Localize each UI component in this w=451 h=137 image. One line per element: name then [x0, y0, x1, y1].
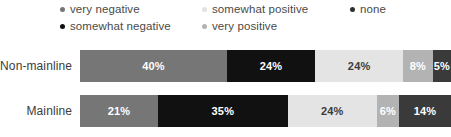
bar-segment-value: 6%: [380, 105, 396, 117]
bar-segment-value: 24%: [260, 60, 283, 72]
bar-segment-value: 24%: [348, 60, 371, 72]
chart-row-mainline: Mainline 21% 35% 24% 6% 14%: [0, 95, 451, 127]
bar-segment-somewhat-positive[interactable]: 24%: [315, 50, 403, 82]
stacked-bar-chart: very negative somewhat negative somewhat…: [0, 0, 451, 137]
bar-segment-somewhat-negative[interactable]: 35%: [158, 95, 288, 127]
bar-segment-none[interactable]: 14%: [399, 95, 451, 127]
bar-segment-value: 5%: [434, 60, 450, 72]
bar-segment-value: 40%: [142, 60, 165, 72]
bar-segment-very-positive[interactable]: 8%: [403, 50, 432, 82]
chart-legend: very negative somewhat negative somewhat…: [0, 0, 451, 38]
legend-item-very-positive[interactable]: very positive: [202, 19, 277, 34]
legend-label-somewhat-positive: somewhat positive: [212, 3, 308, 16]
legend-item-somewhat-negative[interactable]: somewhat negative: [60, 19, 171, 34]
bar-segment-somewhat-negative[interactable]: 24%: [227, 50, 315, 82]
legend-dot-none: [350, 7, 355, 12]
bar-segment-value: 35%: [212, 105, 235, 117]
bar-segment-somewhat-positive[interactable]: 24%: [288, 95, 377, 127]
bar-segment-value: 8%: [410, 60, 426, 72]
chart-row-non-mainline: Non-mainline 40% 24% 24% 8% 5%: [0, 50, 451, 82]
legend-label-very-positive: very positive: [212, 20, 277, 33]
bar-segment-very-positive[interactable]: 6%: [377, 95, 399, 127]
legend-label-none: none: [360, 3, 386, 16]
bar-segment-very-negative[interactable]: 40%: [80, 50, 227, 82]
legend-label-very-negative: very negative: [70, 3, 140, 16]
legend-item-somewhat-positive[interactable]: somewhat positive: [202, 2, 308, 17]
bar-segment-very-negative[interactable]: 21%: [80, 95, 158, 127]
bar-segment-none[interactable]: 5%: [433, 50, 451, 82]
row-label-non-mainline: Non-mainline: [0, 50, 72, 82]
stacked-bar-non-mainline: 40% 24% 24% 8% 5%: [80, 50, 451, 82]
stacked-bar-mainline: 21% 35% 24% 6% 14%: [80, 95, 451, 127]
legend-dot-somewhat-positive: [202, 7, 207, 12]
bar-segment-value: 21%: [108, 105, 131, 117]
row-label-mainline: Mainline: [0, 95, 72, 127]
bar-segment-value: 14%: [414, 105, 437, 117]
legend-dot-very-negative: [60, 7, 65, 12]
legend-dot-somewhat-negative: [60, 24, 65, 29]
legend-label-somewhat-negative: somewhat negative: [70, 20, 171, 33]
legend-dot-very-positive: [202, 24, 207, 29]
bar-segment-value: 24%: [321, 105, 344, 117]
legend-item-very-negative[interactable]: very negative: [60, 2, 140, 17]
legend-item-none[interactable]: none: [350, 2, 386, 17]
